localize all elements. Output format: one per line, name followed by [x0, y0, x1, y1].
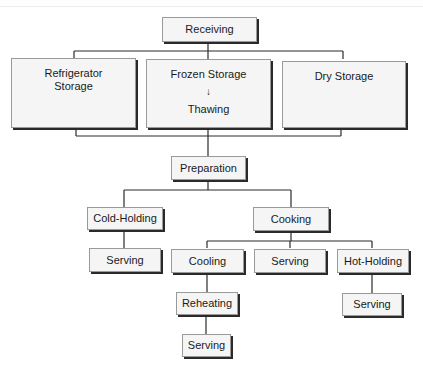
node-reheating: Reheating	[176, 292, 238, 315]
node-dry-storage: Dry Storage	[282, 61, 406, 128]
node-serving-cold: Serving	[89, 248, 161, 272]
node-cooking: Cooking	[253, 207, 329, 231]
node-serving-cooked-label: Serving	[271, 255, 308, 268]
node-dry-storage-label: Dry Storage	[283, 70, 405, 83]
node-serving-hot-label: Serving	[353, 298, 390, 311]
node-refrigerator-storage-label-line1: Refrigerator	[12, 67, 135, 80]
node-cold-holding: Cold-Holding	[87, 207, 163, 230]
node-frozen-storage-label: Frozen Storage	[147, 68, 270, 81]
node-reheating-label: Reheating	[182, 297, 232, 310]
node-serving-cooked: Serving	[254, 249, 326, 273]
node-serving-reheated: Serving	[182, 334, 231, 357]
node-serving-cold-label: Serving	[106, 254, 143, 267]
node-refrigerator-storage: Refrigerator Storage	[11, 58, 136, 128]
node-cooking-label: Cooking	[271, 213, 311, 226]
node-receiving: Receiving	[162, 17, 257, 42]
node-preparation-label: Preparation	[180, 162, 237, 175]
node-frozen-storage: Frozen Storage ↓ Thawing	[146, 59, 271, 128]
node-thawing-label: Thawing	[147, 103, 270, 116]
node-serving-hot: Serving	[342, 293, 402, 316]
node-hot-holding: Hot-Holding	[337, 249, 409, 273]
node-preparation: Preparation	[171, 156, 246, 180]
node-serving-reheated-label: Serving	[188, 339, 225, 352]
node-cooling-label: Cooling	[189, 255, 226, 268]
node-hot-holding-label: Hot-Holding	[344, 255, 402, 268]
node-cooling: Cooling	[171, 249, 244, 273]
arrow-down-icon: ↓	[147, 87, 270, 97]
node-receiving-label: Receiving	[185, 23, 233, 36]
node-cold-holding-label: Cold-Holding	[93, 212, 157, 225]
node-refrigerator-storage-label-line2: Storage	[12, 80, 135, 93]
